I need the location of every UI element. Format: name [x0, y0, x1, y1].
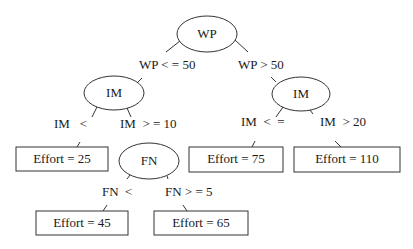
edge-im-gt-20: IM > 20 [320, 115, 366, 129]
node-im-right-label: IM [271, 87, 331, 101]
leaf-65-label: Effort = 65 [154, 216, 248, 230]
leaf-45-label: Effort = 45 [36, 216, 128, 230]
edge-im-le: IM < = [241, 115, 285, 129]
node-wp-label: WP [177, 27, 237, 41]
edge-im-ge-10: IM > = 10 [120, 117, 177, 131]
node-im-left-label: IM [84, 86, 144, 100]
edge-fn-lt: FN < [102, 185, 132, 199]
leaf-75-label: Effort = 75 [189, 152, 283, 166]
edge-fn-ge-5: FN > = 5 [165, 185, 213, 199]
edge-wp-le-50: WP < = 50 [139, 58, 195, 72]
edge-wp-gt-50: WP > 50 [238, 58, 284, 72]
leaf-25-label: Effort = 25 [16, 152, 108, 166]
leaf-110-label: Effort = 110 [294, 152, 400, 166]
node-fn-label: FN [119, 154, 179, 168]
edge-im-lt: IM < [54, 117, 87, 131]
